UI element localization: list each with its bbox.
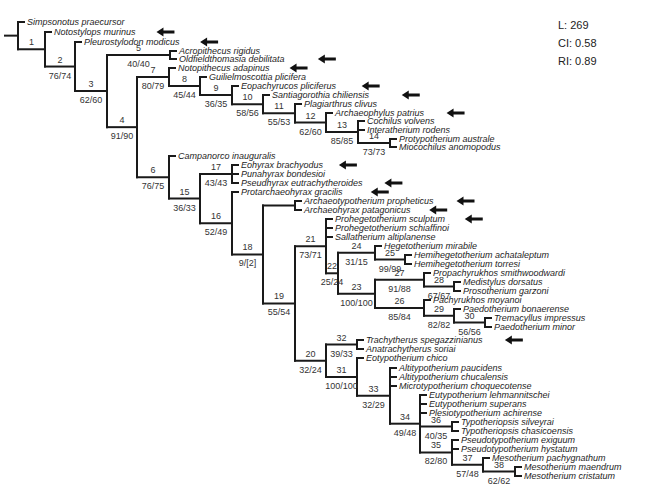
left-arrow-icon [402, 91, 420, 100]
node-number: 25 [385, 248, 395, 258]
node-number: 14 [369, 131, 379, 141]
node-support: 67/67 [428, 291, 451, 301]
node-support: 36/35 [205, 99, 228, 109]
node-number: 7 [150, 65, 155, 75]
node-support: 82/82 [428, 320, 451, 330]
node-number: 19 [274, 291, 284, 301]
node-number: 35 [431, 440, 441, 450]
node-number: 23 [351, 282, 361, 292]
node-number: 30 [464, 311, 474, 321]
node-number: 31 [336, 365, 346, 375]
left-arrow-icon [457, 197, 475, 206]
node-support: 25/24 [321, 277, 344, 287]
node-support: 40/35 [425, 431, 448, 441]
left-arrow-icon [447, 109, 465, 118]
node-support: 56/56 [458, 327, 481, 337]
taxon-label: Mesotherium cristatum [524, 471, 616, 481]
node-support: 91/88 [388, 284, 411, 294]
node-support: 57/48 [456, 469, 479, 479]
node-number: 17 [211, 162, 221, 172]
taxon-label: Paedotherium minor [494, 322, 576, 332]
taxon-label: Eotypotherium chico [366, 353, 448, 363]
node-number: 21 [305, 234, 315, 244]
node-support: 80/79 [142, 81, 165, 91]
node-support: 32/29 [362, 400, 385, 410]
node-number: 4 [119, 115, 124, 125]
node-number: 13 [337, 120, 347, 130]
taxon-label: Miocochilus anomopodus [399, 142, 501, 152]
tree-statistics: L: 269 CI: 0.58 RI: 0.89 [558, 16, 597, 70]
node-number: 27 [394, 268, 404, 278]
node-number: 38 [494, 460, 504, 470]
node-number: 33 [368, 384, 378, 394]
node-support: 73/71 [299, 250, 322, 260]
node-number: 36 [431, 415, 441, 425]
consistency-index: CI: 0.58 [558, 34, 597, 52]
node-number: 18 [242, 242, 252, 252]
node-support: 58/56 [236, 108, 259, 118]
node-support: 52/49 [205, 227, 228, 237]
node-support: 76/74 [49, 71, 72, 81]
left-arrow-icon [465, 215, 483, 224]
node-support: 36/33 [173, 203, 196, 213]
node-number: 6 [150, 165, 155, 175]
node-number: 1 [29, 37, 34, 47]
node-number: 11 [274, 101, 283, 111]
node-support: 73/73 [363, 147, 386, 157]
phylogenetic-tree: Simpsonotus praecursorNotostylops murinu… [0, 0, 661, 503]
retention-index: RI: 0.89 [558, 52, 597, 70]
node-number: 37 [462, 453, 472, 463]
node-number: 16 [211, 211, 221, 221]
left-arrow-icon [505, 336, 523, 345]
node-support: 91/90 [111, 131, 134, 141]
node-number: 15 [179, 187, 189, 197]
node-number: 29 [434, 304, 444, 314]
node-support: 43/43 [205, 178, 228, 188]
node-number: 26 [394, 296, 404, 306]
node-support: 100/100 [325, 381, 358, 391]
node-support: 76/75 [142, 181, 165, 191]
left-arrow-icon [384, 179, 402, 188]
node-support: 100/100 [340, 298, 373, 308]
node-support: 62/62 [488, 476, 511, 486]
node-support: 55/54 [268, 307, 291, 317]
node-support: 62/60 [299, 127, 322, 137]
node-number: 12 [305, 111, 315, 121]
node-support: 85/84 [388, 312, 411, 322]
node-number: 5 [136, 43, 141, 53]
taxon-label: Notostylops murinus [54, 27, 136, 37]
node-support: 39/33 [330, 349, 353, 359]
node-number: 32 [336, 333, 346, 343]
node-support: 9/[2] [239, 258, 257, 268]
left-arrow-icon [318, 55, 336, 64]
node-number: 2 [57, 55, 62, 65]
node-support: 45/44 [173, 90, 196, 100]
tip-labels: Simpsonotus praecursorNotostylops murinu… [27, 17, 622, 481]
node-number: 22 [327, 261, 337, 271]
node-number: 10 [242, 92, 252, 102]
node-support: 31/15 [345, 257, 368, 267]
left-arrow-icon [339, 161, 357, 170]
node-number: 34 [400, 412, 410, 422]
node-support: 82/80 [425, 456, 448, 466]
node-support: 49/48 [394, 428, 417, 438]
node-number: 3 [88, 79, 93, 89]
tree-length: L: 269 [558, 16, 597, 34]
node-support: 40/40 [127, 59, 150, 69]
node-number: 24 [351, 241, 361, 251]
node-support: 62/60 [80, 95, 103, 105]
node-number: 8 [182, 74, 187, 84]
node-number: 20 [305, 349, 315, 359]
node-number: 9 [213, 83, 218, 93]
taxon-label: Simpsonotus praecursor [27, 17, 126, 27]
taxon-label: Pleurostylodon modicus [84, 37, 180, 47]
left-arrow-icon [156, 28, 174, 37]
node-support: 32/24 [299, 365, 322, 375]
node-support: 85/85 [331, 136, 354, 146]
node-number: 28 [434, 275, 444, 285]
node-support: 55/53 [268, 117, 291, 127]
